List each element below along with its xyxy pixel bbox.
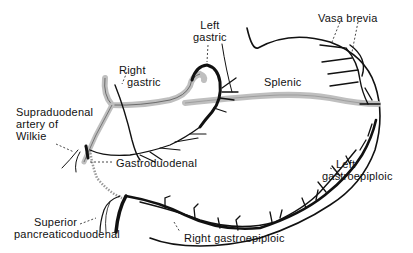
label-supraduodenal-line1: Supraduodenal — [16, 106, 93, 118]
label-gastroduodenal: Gastroduodenal — [116, 157, 197, 169]
label-right-gastric-line1: Right — [119, 64, 161, 76]
label-superior-pancreaticoduodenal-line2: pancreaticoduodenal — [14, 228, 120, 240]
label-left-gastric-line2: gastric — [193, 31, 227, 43]
label-supraduodenal-line2: artery of — [16, 118, 93, 130]
label-right-gastric: Right gastric — [119, 64, 161, 88]
label-superior-pancreaticoduodenal-line1: Superior — [14, 216, 120, 228]
label-superior-pancreaticoduodenal: Superior pancreaticoduodenal — [14, 216, 120, 240]
label-right-gastroepiploic: Right gastroepiploic — [184, 232, 285, 244]
label-left-gastroepiploic-line1: Left — [322, 158, 393, 170]
label-left-gastric-line1: Left — [193, 19, 227, 31]
label-left-gastroepiploic: Left gastroepiploic — [322, 158, 393, 182]
label-supraduodenal-artery: Supraduodenal artery of Wilkie — [16, 106, 93, 142]
label-splenic: Splenic — [264, 76, 301, 88]
left-gastric-artery — [192, 44, 238, 127]
label-left-gastric: Left gastric — [193, 19, 227, 43]
label-left-gastroepiploic-line2: gastroepiploic — [322, 170, 393, 182]
label-supraduodenal-line3: Wilkie — [16, 130, 93, 142]
label-vasa-brevia: Vasa brevia — [318, 12, 377, 24]
label-right-gastric-line2: gastric — [119, 76, 161, 88]
